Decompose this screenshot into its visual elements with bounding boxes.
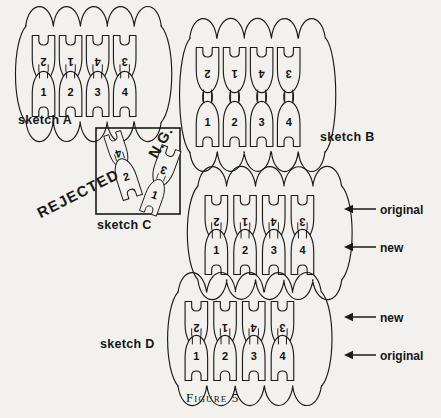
scallop-row xyxy=(178,272,321,292)
arrow-new-top-head xyxy=(344,313,353,321)
puzzle-piece-number: 3 xyxy=(286,68,292,80)
scallop-row xyxy=(26,7,162,27)
puzzle-piece-number: 1 xyxy=(213,244,219,256)
sketch-b-drawing: 21431234 xyxy=(180,18,336,171)
sketch-a-label: sketch A xyxy=(18,113,72,127)
puzzle-piece-number: 1 xyxy=(222,322,228,334)
arrow-new-top xyxy=(344,313,376,321)
puzzle-piece-number: 1 xyxy=(232,68,238,80)
puzzle-piece-prongs xyxy=(203,93,212,100)
arrow-original-bottom-head xyxy=(344,351,353,359)
puzzle-piece-number: 3 xyxy=(95,86,101,98)
puzzle-piece-number: 4 xyxy=(94,56,101,68)
puzzle-piece-number: 4 xyxy=(299,244,306,256)
puzzle-piece-number: 3 xyxy=(259,116,265,128)
puzzle-piece-number: 4 xyxy=(122,86,129,98)
puzzle-piece-number: 4 xyxy=(250,322,257,334)
puzzle-piece-number: 3 xyxy=(299,216,305,228)
sketch-b-label: sketch B xyxy=(320,130,375,144)
strip-left-edge xyxy=(15,26,26,122)
puzzle-piece-number: 4 xyxy=(270,216,277,228)
callout-original-top: original xyxy=(380,203,423,217)
arrow-original-top xyxy=(344,205,376,213)
scallop-row xyxy=(198,166,342,186)
puzzle-piece-number: 2 xyxy=(193,322,199,334)
puzzle-piece-number: 2 xyxy=(222,350,228,362)
puzzle-piece-number: 1 xyxy=(193,350,199,362)
puzzle-piece-number: 2 xyxy=(213,216,219,228)
puzzle-piece-prongs xyxy=(284,93,293,100)
puzzle-piece-prongs xyxy=(257,95,266,102)
puzzle-piece-number: 3 xyxy=(251,350,257,362)
puzzle-piece-number: 2 xyxy=(204,68,210,80)
callout-original-bottom: original xyxy=(380,349,423,363)
puzzle-piece-prongs xyxy=(230,93,239,100)
strip-left-edge xyxy=(168,292,179,386)
puzzle-piece-prongs xyxy=(257,93,266,100)
sketch-d-label: sketch D xyxy=(100,337,155,351)
puzzle-piece-number: 4 xyxy=(279,350,286,362)
figure-5-container: 214312342143123442312143123421431234 ske… xyxy=(0,0,441,418)
callout-new-bottom: new xyxy=(380,241,403,255)
strip-left-edge xyxy=(187,186,198,279)
figure-drawing: 214312342143123442312143123421431234 xyxy=(0,0,441,418)
strip-left-edge xyxy=(180,38,191,152)
sketch-c-label: sketch C xyxy=(97,218,152,232)
puzzle-piece-prongs xyxy=(284,95,293,102)
puzzle-piece-number: 3 xyxy=(279,322,285,334)
scallop-row xyxy=(190,18,326,38)
callout-new-top: new xyxy=(380,311,403,325)
puzzle-piece-number: 1 xyxy=(68,56,74,68)
puzzle-piece-prongs xyxy=(230,95,239,102)
puzzle-piece-number: 1 xyxy=(40,86,46,98)
arrow-original-top-head xyxy=(344,205,353,213)
arrow-original-bottom xyxy=(344,351,376,359)
arrow-new-bottom-head xyxy=(344,243,353,251)
puzzle-piece-number: 2 xyxy=(232,116,238,128)
puzzle-piece-number: 2 xyxy=(68,86,74,98)
puzzle-piece-number: 3 xyxy=(271,244,277,256)
figure-caption: Figure 5 xyxy=(186,390,239,406)
puzzle-piece-number: 1 xyxy=(242,216,248,228)
puzzle-piece-number: 1 xyxy=(204,116,210,128)
strip-right-edge xyxy=(161,26,172,122)
puzzle-piece-number: 2 xyxy=(40,56,46,68)
puzzle-piece-number: 4 xyxy=(286,116,293,128)
arrow-new-bottom xyxy=(344,243,376,251)
sketch-d-drawing: 21431234 xyxy=(168,272,332,405)
sketch-c2-drawing: 21431234 xyxy=(187,166,352,299)
puzzle-piece-number: 4 xyxy=(258,68,265,80)
strip-right-edge xyxy=(322,292,332,386)
scallop-row xyxy=(198,280,342,300)
puzzle-piece-prongs xyxy=(203,95,212,102)
strip-right-edge xyxy=(342,186,352,280)
sketch-c-pair-1: 42 xyxy=(103,131,143,201)
puzzle-piece-number: 2 xyxy=(242,244,248,256)
puzzle-piece-number: 3 xyxy=(122,56,128,68)
